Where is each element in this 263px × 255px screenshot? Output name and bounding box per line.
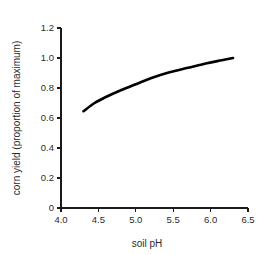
x-tick-label: 6.5 bbox=[241, 214, 254, 225]
x-tick-label: 5.0 bbox=[129, 214, 142, 225]
chart-container: 00.20.40.60.81.01.2 4.04.55.05.56.06.5 s… bbox=[0, 0, 263, 255]
x-tick-label: 4.5 bbox=[92, 214, 105, 225]
y-tick-label: 0.4 bbox=[41, 142, 54, 153]
y-axis-title: corn yield (proportion of maximum) bbox=[11, 41, 22, 196]
x-tick-label: 5.5 bbox=[167, 214, 180, 225]
y-tick-label: 1.0 bbox=[41, 52, 54, 63]
corn-yield-curve bbox=[83, 58, 233, 111]
x-axis-title: soil pH bbox=[132, 238, 163, 249]
y-tick-label: 0.6 bbox=[41, 112, 54, 123]
y-axis-ticks: 00.20.40.60.81.01.2 bbox=[41, 22, 61, 213]
corn-yield-line-chart: 00.20.40.60.81.01.2 4.04.55.05.56.06.5 s… bbox=[0, 0, 263, 255]
y-tick-label: 0 bbox=[49, 202, 54, 213]
y-tick-label: 0.2 bbox=[41, 172, 54, 183]
x-tick-label: 6.0 bbox=[204, 214, 217, 225]
x-axis-ticks: 4.04.55.05.56.06.5 bbox=[54, 208, 254, 225]
y-tick-label: 1.2 bbox=[41, 22, 54, 33]
x-tick-label: 4.0 bbox=[54, 214, 67, 225]
y-tick-label: 0.8 bbox=[41, 82, 54, 93]
